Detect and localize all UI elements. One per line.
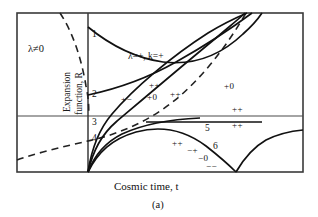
curve-6-second-arch	[236, 130, 303, 172]
sign-label-mid-pp: ++	[170, 90, 181, 99]
curve-equation-label: λ=+, k=+	[128, 52, 164, 62]
y-axis-label-line2: function, R	[74, 72, 84, 115]
curve-number-3: 3	[92, 118, 97, 128]
y-axis-label-line1: Expansion	[62, 72, 72, 112]
panel-label: (a)	[152, 200, 164, 211]
expansion-function-figure: Expansion function, R λ≠0 λ=+, k=+ 1 2 3…	[0, 0, 318, 217]
regime-label: λ≠0	[28, 44, 44, 55]
curve-number-1: 1	[92, 30, 97, 40]
sign-label-right-pp-lower: ++	[232, 121, 243, 130]
curve-number-6: 6	[213, 142, 218, 152]
x-axis-label: Cosmic time, t	[114, 181, 178, 192]
plot-frame	[17, 13, 303, 172]
curve-4	[88, 13, 245, 172]
sign-label-lower-pp: ++	[172, 139, 183, 148]
sign-label-lower-mp: −+	[187, 146, 198, 155]
sign-label-right-p0: +0	[224, 82, 234, 91]
sign-label-mid-p0: +0	[147, 93, 157, 102]
curve-asymptotic	[88, 118, 200, 172]
dashed-curve-lower	[17, 13, 246, 160]
sign-label-lower-mm: −−	[206, 162, 217, 171]
sign-label-upper-pp: ++	[149, 81, 160, 90]
curve-number-2: 2	[92, 90, 97, 100]
sign-label-mid-pm: +−	[121, 95, 132, 104]
curve-3	[88, 13, 247, 172]
curve-number-4: 4	[92, 134, 97, 144]
sign-label-right-pp-upper: ++	[232, 105, 243, 114]
curve-number-5: 5	[205, 124, 210, 134]
